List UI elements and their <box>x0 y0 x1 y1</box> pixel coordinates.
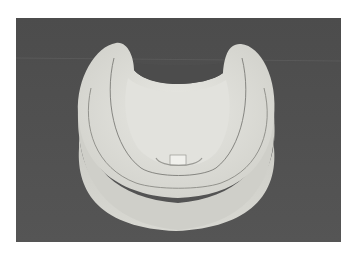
photograph <box>16 18 341 242</box>
anterior-feature <box>170 155 186 165</box>
dental-cast-photo <box>16 18 341 242</box>
